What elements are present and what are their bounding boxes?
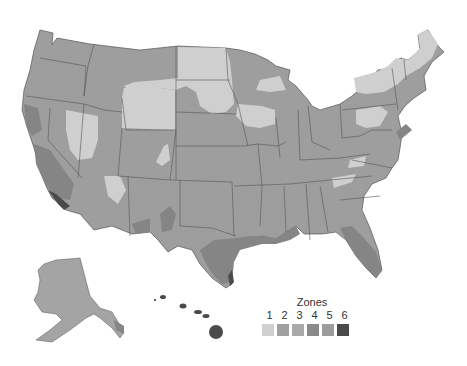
alaska [34,258,124,342]
legend-label: 5 [322,309,337,321]
legend-title: Zones [262,296,362,308]
legend: Zones 1 2 3 4 5 6 [262,296,362,336]
legend-labels: 1 2 3 4 5 6 [262,309,362,321]
legend-label: 1 [262,309,277,321]
legend-label: 6 [337,309,352,321]
legend-swatch-5 [322,324,334,336]
legend-swatch-1 [262,324,274,336]
legend-swatch-2 [277,324,289,336]
legend-label: 4 [307,309,322,321]
legend-label: 2 [277,309,292,321]
hawaii [154,295,223,339]
legend-swatch-6 [337,324,349,336]
us-climate-zone-map [0,0,467,366]
legend-swatch-3 [292,324,304,336]
legend-swatch-4 [307,324,319,336]
legend-swatches [262,324,362,336]
legend-label: 3 [292,309,307,321]
